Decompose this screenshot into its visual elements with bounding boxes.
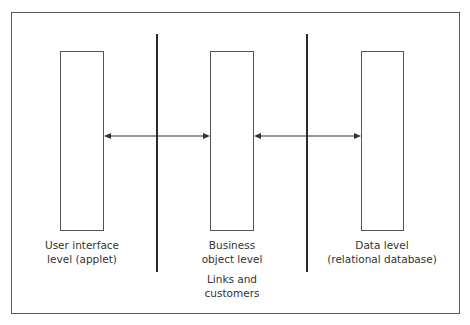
- ui-level-label-line2: level (applet): [45, 252, 119, 266]
- business-sublabel-line2: customers: [205, 286, 260, 300]
- ui-level-label: User interface level (applet): [45, 238, 119, 266]
- data-level-label-line1: Data level: [327, 238, 437, 252]
- business-level-label-line1: Business: [202, 238, 263, 252]
- data-level-label-line2: (relational database): [327, 252, 437, 266]
- arrow-business-data: [254, 133, 361, 139]
- ui-level-label-line1: User interface: [45, 238, 119, 252]
- business-sublabel: Links and customers: [205, 272, 260, 300]
- business-level-label: Business object level: [202, 238, 263, 266]
- data-level-label: Data level (relational database): [327, 238, 437, 266]
- arrow-ui-business: [104, 133, 210, 139]
- business-sublabel-line1: Links and: [205, 272, 260, 286]
- business-level-label-line2: object level: [202, 252, 263, 266]
